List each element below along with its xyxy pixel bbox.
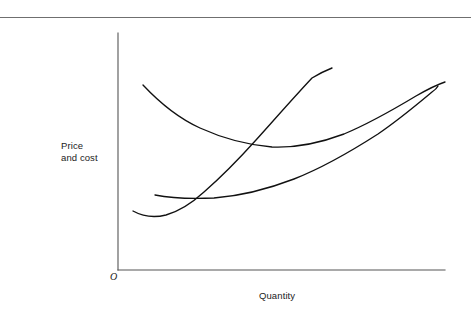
y-axis-label: Priceand cost bbox=[61, 140, 98, 163]
x-axis-label: Quantity bbox=[259, 290, 295, 302]
y-axis-label-line1: Price bbox=[61, 140, 83, 151]
y-axis-label-line2: and cost bbox=[61, 152, 98, 164]
curve-average-variable-cost bbox=[155, 86, 438, 198]
origin-label: O bbox=[110, 271, 117, 283]
curve-average-total-cost bbox=[143, 82, 445, 147]
curve-marginal-cost bbox=[133, 68, 332, 216]
cost-curves-figure: Priceand cost Quantity O bbox=[0, 0, 471, 316]
